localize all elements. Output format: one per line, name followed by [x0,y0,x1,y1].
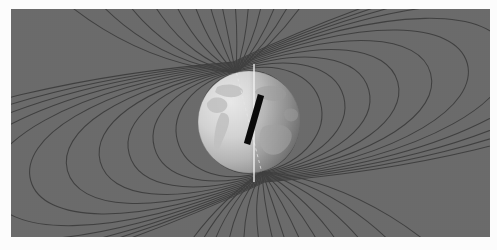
figure-root [0,0,497,250]
field-lines-svg [11,9,490,237]
magnetic-field-panel [11,9,490,237]
